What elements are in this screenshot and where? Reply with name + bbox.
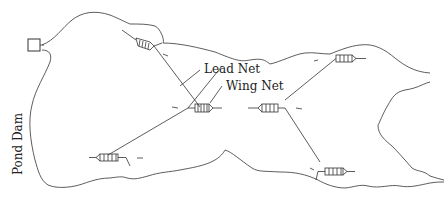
pond-shoreline-right-inner [378, 82, 444, 180]
pond-dam-label: Pond Dam [12, 113, 24, 175]
wing-net-label: Wing Net [226, 80, 284, 92]
fyke-net-3 [89, 154, 143, 166]
water-control-box-icon [28, 39, 40, 51]
lead-net-label: Lead Net [204, 63, 260, 75]
fyke-net-5 [248, 104, 320, 162]
pond-diagram [0, 0, 444, 199]
fyke-net-6 [310, 168, 355, 180]
fyke-net-4 [285, 55, 366, 100]
fyke-net-1 [122, 30, 200, 107]
fyke-net-2 [108, 66, 222, 155]
lead-net-pointer [180, 70, 200, 86]
wing-net-pointer [210, 86, 222, 103]
